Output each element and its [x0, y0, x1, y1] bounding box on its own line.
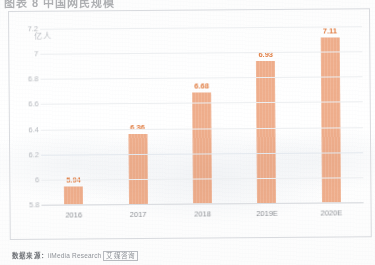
source-tag: 艾媒咨询 — [103, 251, 138, 261]
y-axis-tick-labels: 7.276.86.66.46.265.8 — [12, 11, 40, 238]
bar[interactable] — [64, 187, 83, 205]
x-tick-label: 2020E — [320, 208, 342, 217]
bar-value-label: 6.36 — [130, 123, 145, 132]
y-tick-label: 5.8 — [17, 200, 39, 209]
y-tick-label: 6.4 — [17, 125, 39, 134]
x-tick-label: 2019E — [256, 209, 278, 218]
bar[interactable] — [192, 93, 212, 204]
bar-value-label: 5.94 — [66, 176, 81, 185]
figure-title-text: 图表 8 中国网民规模 — [4, 0, 115, 9]
x-tick-label: 2018 — [194, 209, 211, 218]
x-tick-label: 2017 — [130, 210, 147, 219]
y-tick-label: 7 — [16, 49, 38, 58]
x-tick-label: 2016 — [65, 210, 82, 219]
source-prefix: 数据来源： — [12, 252, 48, 259]
source-footer: 数据来源：iiMedia Research艾媒咨询 — [12, 250, 138, 261]
bar[interactable] — [256, 61, 276, 203]
bar[interactable] — [128, 134, 148, 205]
source-name: iiMedia Research — [48, 252, 101, 259]
bar-value-label: 6.68 — [194, 82, 209, 91]
y-tick-label: 7.2 — [16, 24, 38, 33]
y-tick-label: 6.6 — [17, 100, 39, 109]
chart-plot-area: 亿人 7.276.86.66.46.265.8 5.9420166.362017… — [8, 8, 370, 238]
y-tick-label: 6.8 — [17, 75, 39, 84]
y-tick-label: 6.2 — [17, 150, 39, 159]
bar-value-label: 7.11 — [323, 27, 337, 36]
y-tick-label: 6 — [17, 175, 39, 184]
